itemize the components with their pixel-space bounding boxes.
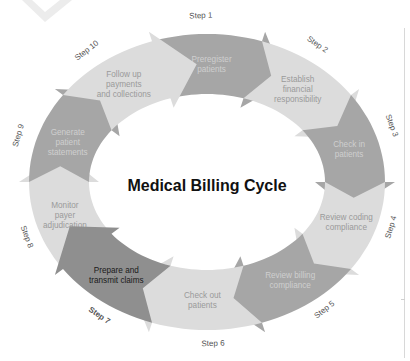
watermark-arrow-icon [22,0,72,22]
step-10-label: Step 10 [73,38,101,62]
step-1-label: Step 1 [189,11,213,21]
diagram-title: Medical Billing Cycle [127,177,286,194]
step-3-label: Step 3 [384,113,400,138]
step-6-description: Check outpatients [184,291,222,310]
step-3-description: Check inpatients [333,140,365,159]
step-5-label: Step 5 [312,299,336,321]
step-6-label: Step 6 [201,339,225,349]
step-4-description: Review codingcompliance [320,213,374,232]
step-2-label: Step 2 [305,34,330,55]
page-edge-divider [404,28,405,358]
step-7-description: Prepare andtransmit claims [89,266,144,285]
step-5-description: Review billingcompliance [265,271,316,290]
step-9-label: Step 9 [11,123,26,148]
step-7-label: Step 7 [87,305,112,326]
step-1-description: Preregisterpatients [192,55,232,74]
page-edge-tick [401,299,405,300]
step-8-label: Step 8 [19,224,35,249]
step-4-label: Step 4 [383,214,398,239]
